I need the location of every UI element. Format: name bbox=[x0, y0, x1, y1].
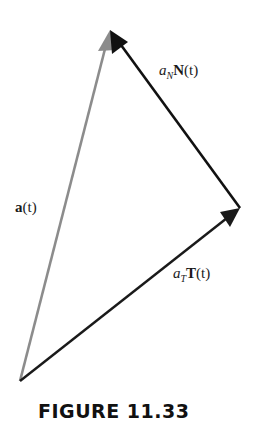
label-vector: T bbox=[186, 265, 196, 281]
label-coef: a bbox=[159, 62, 167, 78]
label-vector: a bbox=[15, 199, 23, 215]
label-arg: (t) bbox=[184, 62, 198, 78]
label-arg: (t) bbox=[196, 265, 210, 281]
label-vector: N bbox=[173, 62, 184, 78]
vector-aN-N-t bbox=[110, 30, 240, 208]
label-aN-N-t: aNN(t) bbox=[159, 63, 198, 81]
arrowhead-icon bbox=[220, 208, 240, 227]
label-arg: (t) bbox=[23, 199, 37, 215]
label-coef: a bbox=[173, 265, 181, 281]
vector-aT-T-t bbox=[20, 208, 240, 381]
figure-caption: FIGURE 11.33 bbox=[38, 402, 189, 421]
label-a-t: a(t) bbox=[15, 200, 37, 215]
label-aT-T-t: aTT(t) bbox=[173, 266, 210, 284]
